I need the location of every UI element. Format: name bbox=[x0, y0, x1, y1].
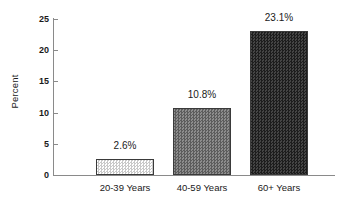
y-tick-25 bbox=[54, 19, 58, 20]
y-tick-label-10: 10 bbox=[9, 109, 49, 118]
x-category-label-60-plus-years: 60+ Years bbox=[244, 183, 314, 193]
y-tick-label-0: 0 bbox=[9, 171, 49, 180]
y-tick-label-5: 5 bbox=[9, 140, 49, 149]
y-tick-label-15: 15 bbox=[9, 77, 49, 86]
bar-40-59-years[interactable] bbox=[173, 108, 231, 175]
y-tick-10 bbox=[54, 113, 58, 114]
bar-value-60-plus-years: 23.1% bbox=[244, 13, 314, 23]
y-tick-15 bbox=[54, 81, 58, 82]
bar-20-39-years[interactable] bbox=[96, 159, 154, 175]
x-category-label-20-39-years: 20-39 Years bbox=[88, 183, 162, 193]
y-axis-line bbox=[53, 18, 54, 176]
bar-value-20-39-years: 2.6% bbox=[96, 141, 154, 151]
y-tick-label-20: 20 bbox=[9, 46, 49, 55]
bar-value-40-59-years: 10.8% bbox=[167, 90, 237, 100]
bar-chart: Percent 25 20 15 10 5 0 2.6% 20-39 Years… bbox=[0, 0, 350, 206]
bar-60-plus-years[interactable] bbox=[250, 31, 308, 175]
y-tick-5 bbox=[54, 144, 58, 145]
y-tick-20 bbox=[54, 50, 58, 51]
y-tick-label-25: 25 bbox=[9, 15, 49, 24]
x-axis-line bbox=[53, 175, 335, 176]
y-tick-0 bbox=[54, 175, 58, 176]
x-category-label-40-59-years: 40-59 Years bbox=[165, 183, 239, 193]
